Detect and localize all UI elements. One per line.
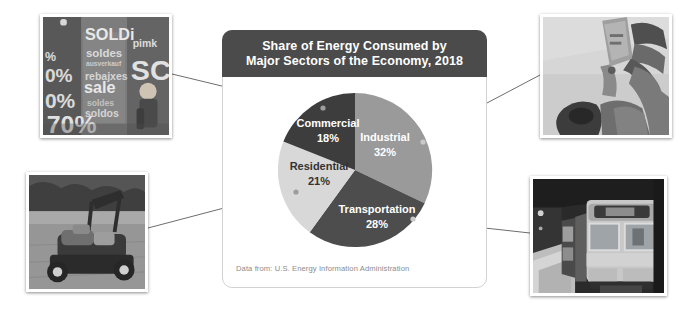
- photo-commercial-image: SOLDi soldes ausverkauf rebajxes sale so…: [43, 17, 169, 135]
- anchor-dot-commercial: [320, 105, 325, 110]
- anchor-dot-transportation: [410, 216, 415, 221]
- photo-industrial[interactable]: [540, 14, 672, 138]
- pie-percent-transportation: 28%: [366, 218, 388, 230]
- pie-percent-industrial: 32%: [374, 146, 396, 158]
- pie-percent-residential: 21%: [308, 175, 330, 187]
- pie-chart: Industrial 32% Transportation 28% Reside…: [251, 85, 459, 255]
- photo-residential[interactable]: [26, 172, 148, 292]
- pie-chart-svg: Industrial 32% Transportation 28% Reside…: [251, 85, 459, 255]
- chart-card-header: Share of Energy Consumed by Major Sector…: [222, 30, 487, 77]
- photo-transportation-image: [533, 179, 664, 293]
- photo-industrial-image: [543, 17, 669, 135]
- infographic-canvas: Share of Energy Consumed by Major Sector…: [0, 0, 687, 317]
- pie-percent-commercial: 18%: [317, 132, 339, 144]
- svg-text:0%: 0%: [45, 89, 76, 112]
- svg-text:sale: sale: [84, 78, 116, 96]
- svg-text:0%: 0%: [45, 65, 73, 86]
- svg-text:ausverkauf: ausverkauf: [86, 60, 122, 67]
- chart-card-body: Industrial 32% Transportation 28% Reside…: [223, 77, 486, 287]
- photo-residential-image: [29, 175, 145, 289]
- svg-text:SOLDi: SOLDi: [85, 25, 135, 43]
- svg-text:soldes: soldes: [87, 98, 114, 108]
- svg-text:%: %: [45, 50, 56, 64]
- photo-commercial[interactable]: SOLDi soldes ausverkauf rebajxes sale so…: [40, 14, 172, 138]
- page-title-line-2: Major Sectors of the Economy, 2018: [246, 54, 463, 69]
- pie-label-commercial: Commercial: [297, 117, 360, 129]
- pie-label-industrial: Industrial: [360, 131, 410, 143]
- data-source-note: Data from: U.S. Energy Information Admin…: [236, 264, 409, 273]
- pie-label-residential: Residential: [290, 160, 349, 172]
- anchor-dot-residential: [293, 189, 298, 194]
- photo-transportation[interactable]: [530, 176, 667, 296]
- svg-text:SC: SC: [131, 54, 169, 86]
- anchor-dot-industrial: [420, 139, 425, 144]
- chart-card: Share of Energy Consumed by Major Sector…: [222, 30, 487, 288]
- svg-text:soldes: soldes: [86, 47, 122, 59]
- page-title-line-1: Share of Energy Consumed by: [262, 39, 447, 54]
- pie-label-transportation: Transportation: [338, 203, 415, 215]
- svg-text:pimk: pimk: [133, 38, 158, 49]
